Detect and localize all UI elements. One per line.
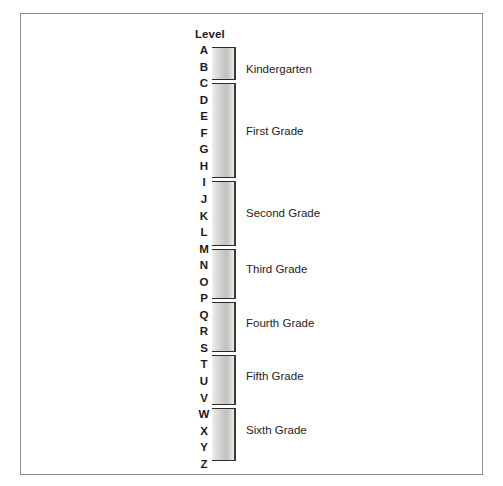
level-label-n: N <box>196 259 212 271</box>
grade-band-sixth-grade <box>212 408 236 461</box>
level-label-s: S <box>196 342 212 354</box>
level-label-a: A <box>196 44 212 56</box>
level-label-f: F <box>196 127 212 139</box>
grade-band-fifth-grade <box>212 355 236 405</box>
level-label-e: E <box>196 110 212 122</box>
level-label-i: I <box>196 176 212 188</box>
grade-label-fourth-grade: Fourth Grade <box>246 317 314 329</box>
level-label-x: X <box>196 425 212 437</box>
grade-band-kindergarten <box>212 47 236 80</box>
grade-label-sixth-grade: Sixth Grade <box>246 424 307 436</box>
level-label-u: U <box>196 375 212 387</box>
grade-label-kindergarten: Kindergarten <box>246 63 312 75</box>
grade-band-first-grade <box>212 83 236 178</box>
level-label-c: C <box>196 77 212 89</box>
level-label-z: Z <box>196 458 212 470</box>
axis-title-level: Level <box>195 28 225 40</box>
grade-band-second-grade <box>212 181 236 246</box>
level-label-m: M <box>196 243 212 255</box>
level-label-q: Q <box>196 309 212 321</box>
level-label-w: W <box>196 408 212 420</box>
level-label-o: O <box>196 276 212 288</box>
level-label-k: K <box>196 210 212 222</box>
level-scale: ABCDEFGHIJKLMNOPQRSTUVWXYZ <box>196 44 212 464</box>
level-label-d: D <box>196 94 212 106</box>
level-label-l: L <box>196 226 212 238</box>
grade-band-column <box>212 47 236 461</box>
level-label-r: R <box>196 325 212 337</box>
page-root: Level ABCDEFGHIJKLMNOPQRSTUVWXYZ Kinderg… <box>0 0 503 486</box>
grade-band-third-grade <box>212 249 236 299</box>
level-label-y: Y <box>196 441 212 453</box>
level-label-g: G <box>196 143 212 155</box>
level-label-v: V <box>196 392 212 404</box>
grade-label-first-grade: First Grade <box>246 125 304 137</box>
grade-band-fourth-grade <box>212 302 236 352</box>
level-label-j: J <box>196 193 212 205</box>
level-label-b: B <box>196 61 212 73</box>
reading-level-chart: Level ABCDEFGHIJKLMNOPQRSTUVWXYZ Kinderg… <box>0 0 503 486</box>
grade-label-second-grade: Second Grade <box>246 207 320 219</box>
level-label-t: T <box>196 358 212 370</box>
level-label-h: H <box>196 160 212 172</box>
grade-label-fifth-grade: Fifth Grade <box>246 370 304 382</box>
level-label-p: P <box>196 292 212 304</box>
grade-label-third-grade: Third Grade <box>246 263 307 275</box>
